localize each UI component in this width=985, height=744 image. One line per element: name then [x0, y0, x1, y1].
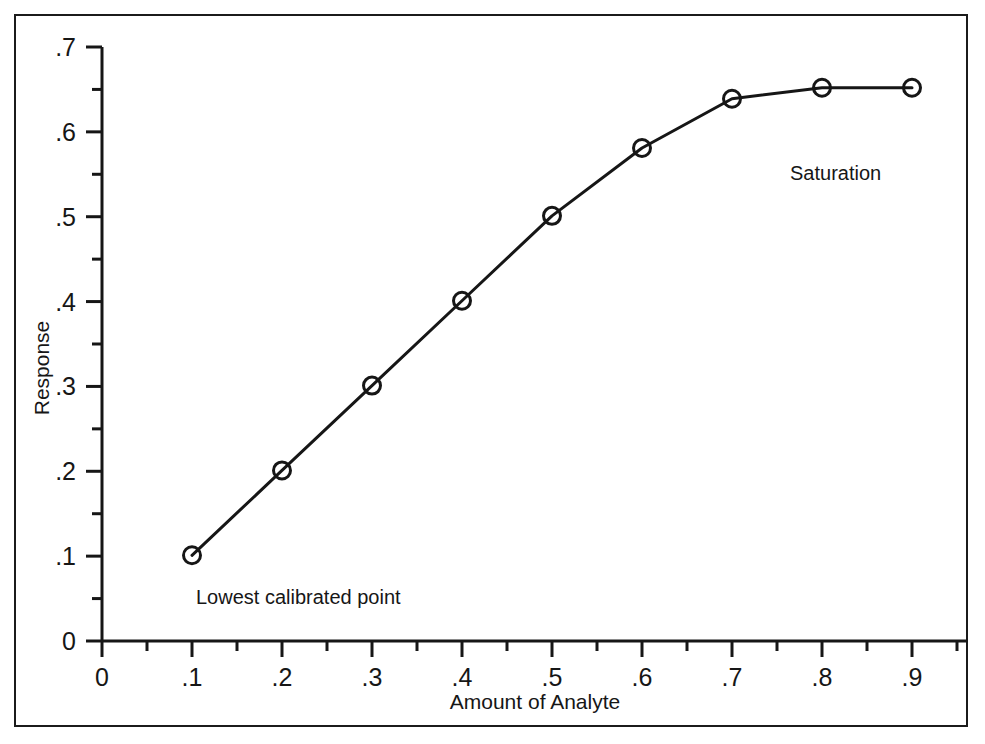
- annotation-lowest-calibrated-point: Lowest calibrated point: [196, 586, 401, 608]
- axes: [102, 47, 968, 641]
- data-series-calibration-curve: [184, 79, 921, 564]
- series-markers: [184, 79, 921, 564]
- y-tick-label: .6: [55, 118, 76, 146]
- x-axis-title: Amount of Analyte: [450, 690, 620, 713]
- x-tick-label: .6: [632, 663, 653, 691]
- series-line: [192, 88, 912, 556]
- y-tick-label: .7: [55, 33, 76, 61]
- y-tick-label: .2: [55, 457, 76, 485]
- x-tick-label: .3: [362, 663, 383, 691]
- y-axis-tick-labels: 0.1.2.3.4.5.6.7: [55, 33, 76, 655]
- x-tick-label: .2: [272, 663, 293, 691]
- y-tick-label: .3: [55, 372, 76, 400]
- y-axis-title: Response: [30, 321, 53, 416]
- figure-root: 0.1.2.3.4.5.6.7 0.1.2.3.4.5.6.7.8.9 Amou…: [0, 0, 985, 744]
- x-tick-label: .9: [902, 663, 923, 691]
- x-tick-label: .5: [542, 663, 563, 691]
- x-tick-label: .8: [812, 663, 833, 691]
- y-tick-label: .4: [55, 288, 76, 316]
- y-tick-label: 0: [62, 627, 76, 655]
- calibration-curve-chart: 0.1.2.3.4.5.6.7 0.1.2.3.4.5.6.7.8.9 Amou…: [0, 0, 985, 744]
- x-tick-label: .1: [182, 663, 203, 691]
- y-tick-label: .5: [55, 203, 76, 231]
- x-tick-label: .7: [722, 663, 743, 691]
- y-tick-label: .1: [55, 542, 76, 570]
- x-tick-label: .4: [452, 663, 473, 691]
- x-axis-tick-labels: 0.1.2.3.4.5.6.7.8.9: [95, 663, 922, 691]
- x-tick-label: 0: [95, 663, 109, 691]
- annotation-saturation: Saturation: [790, 162, 881, 184]
